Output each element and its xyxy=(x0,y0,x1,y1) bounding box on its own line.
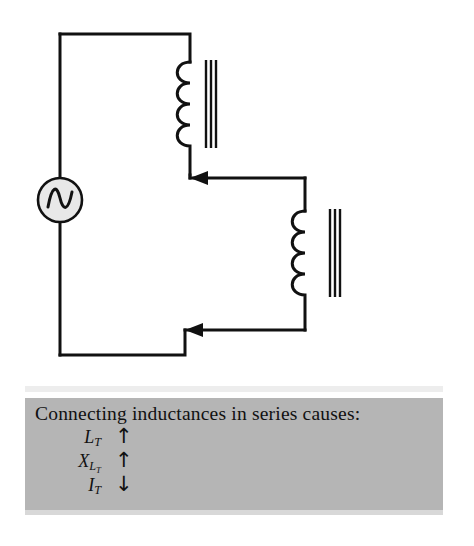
symbol-total-current: IT xyxy=(35,475,101,498)
arrow-total-inductive-reactance: ↑ xyxy=(115,450,133,471)
quantity-list: LT ↑ XLT ↑ IT ↓ xyxy=(35,426,155,498)
caption-top-edge xyxy=(25,386,443,392)
circuit-schematic xyxy=(0,0,474,390)
current-arrow-upper-head xyxy=(190,171,208,185)
quantity-row-xlt: XLT ↑ xyxy=(35,450,155,474)
caption-bottom-edge xyxy=(25,510,443,515)
caption-title: Connecting inductances in series causes: xyxy=(35,402,443,425)
quantity-row-it: IT ↓ xyxy=(35,474,155,498)
figure-canvas: Connecting inductances in series causes:… xyxy=(0,0,474,546)
caption-panel: Connecting inductances in series causes:… xyxy=(25,398,443,510)
quantity-row-lt: LT ↑ xyxy=(35,426,155,450)
inductor-2-coils xyxy=(292,211,305,330)
wire-top xyxy=(60,34,190,62)
arrow-total-inductance: ↑ xyxy=(115,426,133,447)
inductor-2-core xyxy=(330,209,340,297)
current-arrow-lower-head xyxy=(185,323,203,337)
symbol-total-inductance: LT xyxy=(35,427,101,450)
arrow-total-current: ↓ xyxy=(115,474,133,495)
symbol-total-inductive-reactance: XLT xyxy=(35,451,101,475)
inductor-1-core xyxy=(206,60,216,148)
inductor-1-coils xyxy=(177,62,190,175)
wire-bottom xyxy=(60,330,185,355)
